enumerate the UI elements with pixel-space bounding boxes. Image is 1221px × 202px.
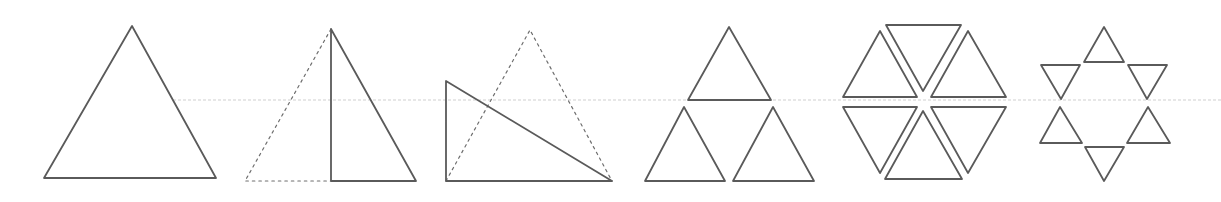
triangle-diagram <box>0 0 1221 202</box>
figure-three-triangles <box>645 27 814 181</box>
figure-rotated-right-triangle <box>446 30 612 181</box>
figure-equilateral-triangle <box>44 26 216 178</box>
figure-bisected-triangle <box>245 29 416 181</box>
figure-hexagon-of-triangles <box>843 25 1006 179</box>
figure-star-of-triangles <box>1040 27 1170 181</box>
